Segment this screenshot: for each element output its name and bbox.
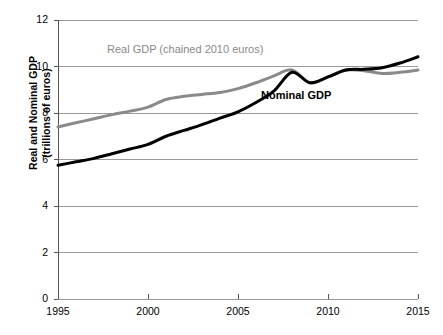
x-tick-label-2010: 2010 [305, 305, 351, 317]
y-tick-label-8: 8 [24, 106, 48, 118]
series-group [58, 57, 418, 166]
gdp-line-chart: Real and Nominal GDP (trillions of euros… [0, 0, 443, 335]
y-tick-label-12: 12 [24, 13, 48, 25]
series-line-real-gdp-chained-2010-euros [58, 70, 418, 127]
series-label-real-gdp: Real GDP (chained 2010 euros) [107, 43, 263, 55]
x-tick-label-1995: 1995 [35, 305, 81, 317]
gridlines-group [54, 20, 418, 299]
x-tick-label-2000: 2000 [125, 305, 171, 317]
y-tick-label-4: 4 [24, 199, 48, 211]
y-tick-label-2: 2 [24, 246, 48, 258]
x-tick-label-2015: 2015 [395, 305, 441, 317]
y-tick-label-0: 0 [24, 292, 48, 304]
series-label-nominal-gdp: Nominal GDP [261, 89, 331, 101]
y-tick-label-10: 10 [24, 60, 48, 72]
y-tick-label-6: 6 [24, 153, 48, 165]
series-line-nominal-gdp [58, 57, 418, 166]
x-tick-marks-group [58, 294, 418, 299]
x-tick-label-2005: 2005 [215, 305, 261, 317]
